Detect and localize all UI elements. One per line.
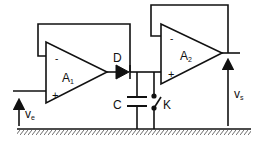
input-voltage-label: ve <box>25 107 35 121</box>
switch-label: K <box>163 98 171 112</box>
switch-k[interactable] <box>152 72 161 129</box>
circuit-diagram: - + A1 - + A2 D C K ve vs <box>0 0 257 149</box>
output-voltage-label: vs <box>234 87 244 101</box>
capacitor-c <box>127 72 147 129</box>
diode-label: D <box>113 51 122 65</box>
diode-d <box>116 65 130 79</box>
ground <box>17 129 251 135</box>
a1-plus-label: + <box>52 89 58 101</box>
a1-minus-label: - <box>55 53 58 64</box>
capacitor-label: C <box>113 98 122 112</box>
a2-plus-label: + <box>168 68 174 80</box>
a2-minus-label: - <box>170 33 173 44</box>
